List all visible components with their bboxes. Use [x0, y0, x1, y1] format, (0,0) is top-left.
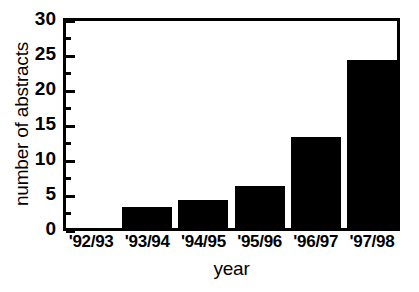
y-axis-tick-label: 15	[18, 114, 56, 133]
x-axis-tick-label: '94/95	[175, 232, 231, 252]
x-axis-tick-labels: '92/93'93/94'94/95'95/96'96/97'97/98	[63, 232, 400, 256]
bar	[178, 200, 228, 228]
bar	[291, 137, 341, 228]
bar	[347, 60, 397, 228]
y-axis-tick-label: 30	[18, 9, 56, 28]
y-axis-tick-label: 5	[18, 184, 56, 203]
y-axis-tick-label: 0	[18, 219, 56, 238]
bar	[122, 207, 172, 228]
x-axis-tick-label: '96/97	[288, 232, 344, 252]
y-axis-tick-label: 25	[18, 44, 56, 63]
x-axis-title: year	[63, 258, 400, 280]
y-axis-tick-labels: 051015202530	[18, 0, 56, 292]
bar-chart-figure: number of abstracts 051015202530 '92/93'…	[0, 0, 419, 292]
bar-series	[63, 18, 400, 228]
y-axis-tick-label: 20	[18, 79, 56, 98]
x-axis-tick-label: '97/98	[344, 232, 400, 252]
y-axis-tick-label: 10	[18, 149, 56, 168]
x-axis-tick-label: '93/94	[119, 232, 175, 252]
x-axis-tick-label: '95/96	[232, 232, 288, 252]
bar	[235, 186, 285, 228]
x-axis-line	[63, 228, 400, 231]
x-axis-tick-label: '92/93	[63, 232, 119, 252]
